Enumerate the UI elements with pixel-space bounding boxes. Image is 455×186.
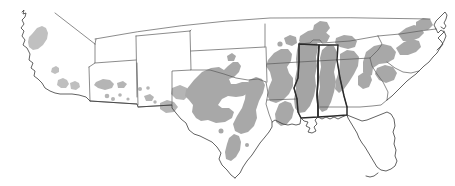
region-nm-dot-c <box>153 100 156 103</box>
region-nm-dot-b <box>146 86 150 90</box>
region-arizona-dot-b <box>111 97 115 101</box>
region-oklahoma-dot <box>234 68 238 72</box>
region-nm-dot-a <box>138 87 142 91</box>
region-missouri-dot <box>277 41 282 46</box>
us-southern-states-map: Southern United States distribution map … <box>0 0 455 186</box>
map-container: Southern United States distribution map … <box>0 0 455 186</box>
region-texas-dot-b <box>245 143 249 147</box>
region-arizona-dot-d <box>126 97 129 100</box>
region-arizona-dot-c <box>118 93 122 97</box>
region-arizona-dot-a <box>105 94 110 99</box>
region-texas-dot-a <box>219 129 224 134</box>
